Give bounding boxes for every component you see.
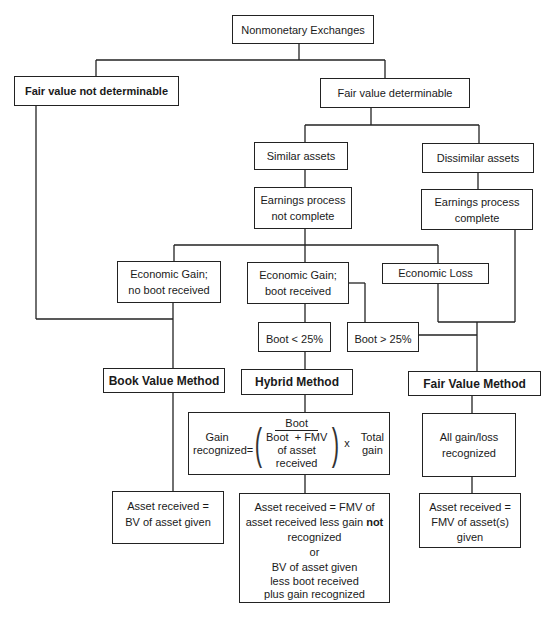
node-label-line: recognized [288,530,342,545]
multiply-sign: x [344,437,350,450]
node-label-line: asset received less gain not [246,515,384,530]
node-label-line: no boot received [128,282,209,298]
node-dissimilar-assets: Dissimilar assets [422,143,534,173]
formula-rhs-line: gain [356,444,389,457]
formula-denominator-line: Boot + FMV [266,431,327,444]
node-label-line: BV of asset given [272,560,358,575]
node-label: Dissimilar assets [437,150,520,166]
node-earnings-complete: Earnings process complete [421,189,533,230]
node-label-line: plus gain recognized [264,588,365,601]
formula-numerator: Boot [275,417,318,431]
node-label-line: FMV of asset(s) [431,515,509,530]
node-label-line: Economic Gain; [130,266,208,282]
node-hybrid-method: Hybrid Method [241,369,353,395]
formula-lhs-line: Gain [193,431,241,444]
formula-lhs: Gain recognized= [193,431,241,457]
node-label-line: Asset received = FMV of [254,500,374,515]
node-fmv-result: Asset received = FMV of asset(s) given [419,493,521,548]
node-label: Similar assets [267,148,335,164]
formula-denominator-line: received [276,457,318,470]
node-label: Fair Value Method [423,376,526,392]
label-part: Fair value [25,85,79,97]
node-label: Nonmonetary Exchanges [241,22,365,38]
node-label-line: Earnings process [261,192,346,208]
label-emphasis: not [366,516,383,528]
node-boot-less-than-25: Boot < 25% [258,322,331,352]
node-gain-formula: Gain recognized= ( Boot Boot + FMV of as… [188,412,390,475]
node-label-line: boot received [265,283,331,299]
node-label-line: Asset received = [429,500,511,515]
formula-bracket-group: ( Boot Boot + FMV of asset received ) [251,417,342,470]
node-label-line: given [457,530,483,545]
node-earnings-not-complete: Earnings process not complete [254,187,352,229]
formula-rhs-line: Total [356,431,389,444]
label-part: determinable [97,85,169,97]
formula-lhs-line: recognized= [193,444,241,457]
node-boot-greater-than-25: Boot > 25% [347,322,419,352]
node-label-line: Asset received = [127,498,209,514]
node-label-line: complete [455,210,500,226]
node-economic-gain-no-boot: Economic Gain; no boot received [117,261,221,303]
node-label: Book Value Method [109,373,220,389]
node-label-line: BV of asset given [125,514,211,530]
formula-fraction: Boot Boot + FMV of asset received [266,417,328,470]
node-label-line: Earnings process [435,194,520,210]
node-label-line: recognized [442,445,496,461]
right-paren-icon: ) [331,422,338,466]
node-economic-gain-boot: Economic Gain; boot received [247,262,349,304]
node-label-line: not complete [272,208,335,224]
node-label-line: All gain/loss [440,429,499,445]
node-fair-value-not-determinable: Fair value not determinable [14,76,179,106]
node-book-value-method: Book Value Method [103,368,225,393]
left-paren-icon: ( [255,422,262,466]
node-nonmonetary-exchanges: Nonmonetary Exchanges [232,15,374,44]
label-emphasis: not [79,85,96,97]
node-economic-loss: Economic Loss [382,263,489,284]
node-fair-value-determinable: Fair value determinable [320,78,470,108]
formula-rhs: Total gain [356,431,389,457]
node-label: Economic Loss [398,265,473,281]
node-label-line: or [310,545,320,560]
node-all-gain-loss-recognized: All gain/loss recognized [422,413,516,477]
node-label: Hybrid Method [255,374,339,390]
node-label: Fair value not determinable [25,83,168,99]
node-label-line: Economic Gain; [259,267,337,283]
node-label: Boot > 25% [354,331,411,347]
node-hybrid-result: Asset received = FMV of asset received l… [239,493,390,603]
node-bv-result: Asset received = BV of asset given [112,491,224,544]
node-similar-assets: Similar assets [254,142,348,170]
node-label: Boot < 25% [266,331,323,347]
formula-denominator-line: of asset [277,444,316,457]
node-fair-value-method: Fair Value Method [408,371,541,396]
node-label: Fair value determinable [338,85,453,101]
node-label-line: less boot received [270,575,359,588]
label-part: asset received less gain [246,516,366,528]
